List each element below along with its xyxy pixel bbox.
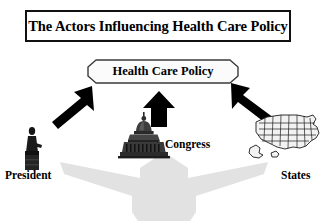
diagram-title-box: The Actors Influencing Health Care Polic… (25, 10, 291, 42)
center-node-health-care-policy: Health Care Policy (86, 58, 240, 85)
arrow-up-right-icon (48, 84, 96, 130)
actor-label-president: President (5, 169, 51, 181)
capitol-dome-icon (118, 112, 170, 160)
president-podium-silhouette-icon (16, 126, 50, 172)
united-states-map-icon (247, 110, 325, 168)
actor-label-congress: Congress (165, 138, 210, 150)
page-title: The Actors Influencing Health Care Polic… (28, 18, 287, 35)
actor-label-states: States (281, 169, 310, 181)
center-node-label: Health Care Policy (86, 58, 240, 85)
health-care-policy-diagram: The Actors Influencing Health Care Polic… (0, 0, 328, 221)
